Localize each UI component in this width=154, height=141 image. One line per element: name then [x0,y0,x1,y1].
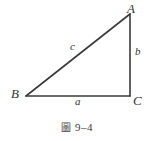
caption-number: 9–4 [75,121,93,133]
vertex-label-c: C [133,94,142,107]
vertex-label-a: A [127,2,135,15]
side-label-c: c [70,41,75,52]
side-label-b: b [135,46,141,57]
figure-container: A B C a b c 圖 9–4 [0,0,154,141]
vertex-label-b: B [11,87,19,100]
side-label-a: a [75,96,81,107]
caption-figure-word: 圖 [61,122,75,133]
figure-caption: 圖 9–4 [0,119,154,134]
side-c-line [26,14,130,96]
